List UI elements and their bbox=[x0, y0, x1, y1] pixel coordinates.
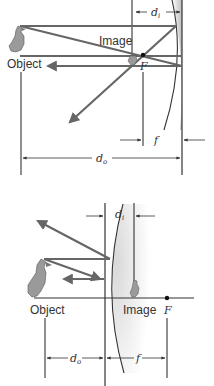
do-label: do bbox=[96, 152, 107, 166]
ray-toward-focus bbox=[44, 259, 100, 279]
object-duck-icon bbox=[9, 26, 26, 52]
convex-mirror-diagram: di Object Image F do f bbox=[28, 203, 194, 386]
do-label: do bbox=[70, 352, 81, 366]
object-label: Object bbox=[7, 57, 42, 71]
focal-point-label: F bbox=[163, 304, 172, 317]
focal-point-dot bbox=[141, 53, 145, 57]
focal-point-dot bbox=[165, 296, 169, 300]
focal-point-label: F bbox=[139, 60, 148, 73]
di-label: di bbox=[151, 6, 160, 20]
ray-reflected-diverging bbox=[38, 221, 110, 259]
image-label: Image bbox=[99, 34, 133, 48]
f-label: f bbox=[153, 134, 160, 147]
object-label: Object bbox=[30, 303, 65, 317]
object-duck-icon bbox=[28, 259, 52, 297]
image-label: Image bbox=[123, 303, 157, 317]
mirror-ray-diagrams: di F Image Object f do bbox=[0, 0, 214, 386]
concave-mirror-diagram: di F Image Object f do bbox=[7, 0, 205, 175]
